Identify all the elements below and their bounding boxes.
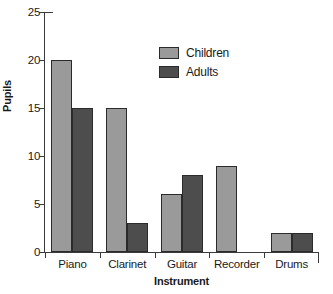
bar-piano-adults xyxy=(72,108,93,252)
bar-drums-adults xyxy=(292,233,313,252)
y-axis-tick-labels: 0510152025 xyxy=(14,0,40,294)
x-axis-title: Instrument xyxy=(44,275,319,287)
legend-label: Children xyxy=(186,46,229,60)
legend-item-children: Children xyxy=(159,45,269,61)
x-tick-label-recorder: Recorder xyxy=(209,258,264,271)
y-tick-label: 10 xyxy=(18,151,40,161)
y-axis-title: Pupils xyxy=(0,66,14,126)
x-tick-label-clarinet: Clarinet xyxy=(100,258,155,271)
bar-guitar-adults xyxy=(182,175,203,252)
y-tick-label: 5 xyxy=(18,199,40,209)
legend-label: Adults xyxy=(186,65,218,79)
bar-drums-children xyxy=(271,233,292,252)
x-tick-label-drums: Drums xyxy=(264,258,319,271)
y-tick-label: 25 xyxy=(18,7,40,17)
legend-item-adults: Adults xyxy=(159,64,269,80)
x-axis-line xyxy=(44,252,319,253)
bar-group xyxy=(51,12,93,252)
bar-group xyxy=(106,12,148,252)
y-tick-label: 20 xyxy=(18,55,40,65)
legend-swatch-adults xyxy=(159,66,179,78)
y-tick-label: 0 xyxy=(18,247,40,257)
x-tick-label-piano: Piano xyxy=(45,258,100,271)
bar-guitar-children xyxy=(161,194,182,252)
y-tick-label: 15 xyxy=(18,103,40,113)
bar-chart: Pupils 0510152025 PianoClarinetGuitarRec… xyxy=(0,0,333,294)
x-tick-label-guitar: Guitar xyxy=(155,258,210,271)
bar-group xyxy=(271,12,313,252)
chart-legend: ChildrenAdults xyxy=(159,45,269,83)
bar-recorder-children xyxy=(216,166,237,252)
bar-clarinet-children xyxy=(106,108,127,252)
bar-piano-children xyxy=(51,60,72,252)
legend-swatch-children xyxy=(159,47,179,59)
bar-clarinet-adults xyxy=(127,223,148,252)
